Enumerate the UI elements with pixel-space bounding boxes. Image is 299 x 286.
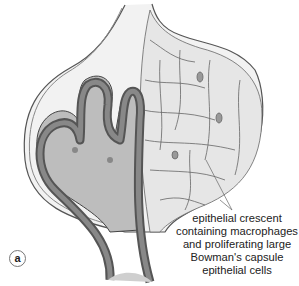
annotation-line-4: Bowman's capsule — [176, 251, 298, 264]
annotation-line-5: epithelial cells — [176, 264, 298, 277]
annotation-line-3: and proliferating large — [176, 238, 298, 251]
panel-label: a — [9, 250, 26, 267]
annotation-line-1: epithelial crescent — [176, 212, 298, 225]
crescent-annotation: epithelial crescent containing macrophag… — [176, 212, 298, 277]
annotation-line-2: containing macrophages — [176, 225, 298, 238]
